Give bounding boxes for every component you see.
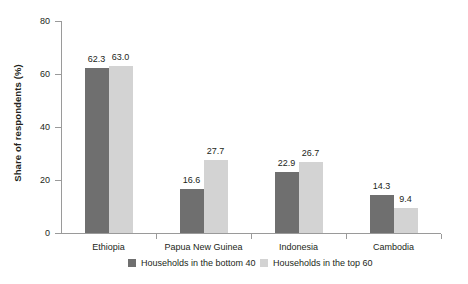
bar-value-label: 27.7 xyxy=(198,147,234,156)
y-tick-mark xyxy=(55,74,61,75)
y-tick-label: 20 xyxy=(16,176,50,185)
bar xyxy=(109,66,133,233)
bar-value-label: 14.3 xyxy=(364,182,400,191)
x-tick-mark xyxy=(346,234,347,239)
legend-label: Households in the top 60 xyxy=(273,258,373,268)
y-tick-label: 0 xyxy=(16,229,50,238)
y-tick-label: 40 xyxy=(16,123,50,132)
y-axis-line xyxy=(61,21,62,234)
category-label: Papua New Guinea xyxy=(156,242,251,253)
legend-label: Households in the bottom 40 xyxy=(141,258,256,268)
bar-chart: Share of respondents (%) 020406080 62.36… xyxy=(0,0,468,284)
x-tick-mark xyxy=(251,234,252,239)
bar xyxy=(299,162,323,233)
bar-value-label: 26.7 xyxy=(293,149,329,158)
category-label: Ethiopia xyxy=(61,242,156,253)
bar xyxy=(204,160,228,233)
bar xyxy=(275,172,299,233)
legend-swatch-icon xyxy=(128,259,136,267)
chart-legend: Households in the bottom 40Households in… xyxy=(0,257,468,271)
x-tick-mark xyxy=(156,234,157,239)
y-tick-mark xyxy=(55,127,61,128)
y-tick-label: 80 xyxy=(16,17,50,26)
bar xyxy=(180,189,204,233)
legend-item[interactable]: Households in the top 60 xyxy=(260,257,373,269)
category-label: Cambodia xyxy=(346,242,441,253)
legend-swatch-icon xyxy=(260,259,268,267)
category-label: Indonesia xyxy=(251,242,346,253)
legend-item[interactable]: Households in the bottom 40 xyxy=(128,257,256,269)
bar xyxy=(85,68,109,233)
bar-value-label: 63.0 xyxy=(103,53,139,62)
y-tick-mark xyxy=(55,21,61,22)
y-tick-label: 60 xyxy=(16,70,50,79)
bar xyxy=(394,208,418,233)
y-tick-mark xyxy=(55,233,61,234)
y-tick-mark xyxy=(55,180,61,181)
x-tick-mark xyxy=(441,234,442,239)
bar-value-label: 9.4 xyxy=(388,195,424,204)
